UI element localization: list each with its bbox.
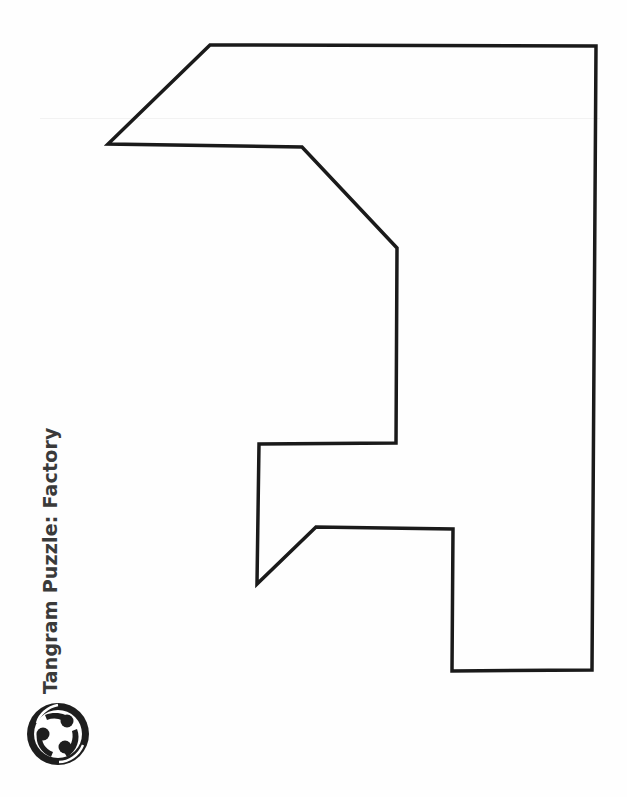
tangram-silhouette-outline [0, 0, 627, 797]
tangram-worksheet-page: Tangram Puzzle: Factory [0, 0, 627, 797]
community-circle-logo-icon [25, 701, 91, 767]
factory-shape-outline [108, 45, 596, 671]
title-rotated-container: Tangram Puzzle: Factory [38, 427, 62, 694]
page-title: Tangram Puzzle: Factory [39, 427, 61, 694]
